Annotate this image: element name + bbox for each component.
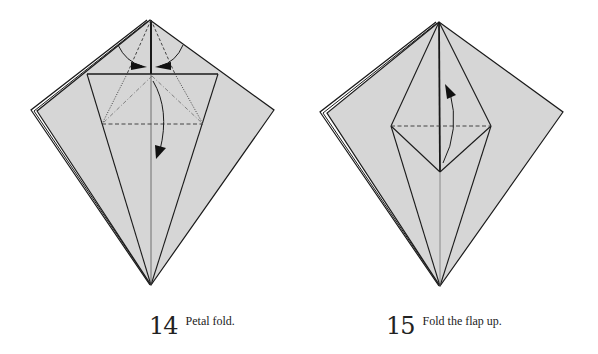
origami-diagrams: [0, 0, 598, 354]
step-14-caption: 14 Petal fold.: [149, 314, 235, 338]
step-instruction: Petal fold.: [186, 314, 235, 328]
step-number: 15: [386, 314, 415, 338]
step-15-caption: 15 Fold the flap up.: [386, 314, 502, 338]
step-instruction: Fold the flap up.: [423, 314, 502, 328]
step-14-diagram: [31, 20, 274, 285]
step-15-diagram: [320, 22, 563, 286]
step-number: 14: [149, 314, 178, 338]
